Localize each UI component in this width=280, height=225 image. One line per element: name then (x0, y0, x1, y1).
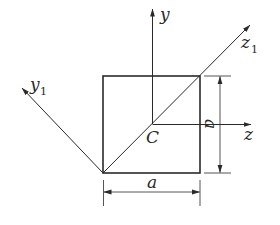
square-section-diagram: y z z 1 y 1 C a a (0, 0, 280, 225)
svg-text:z: z (240, 32, 251, 52)
svg-text:1: 1 (40, 85, 47, 98)
svg-text:y: y (29, 74, 40, 94)
y1-axis-label: y 1 (29, 74, 47, 98)
height-dimension-label: a (201, 119, 221, 129)
z1-axis-label: z 1 (240, 32, 258, 56)
centroid-label: C (146, 127, 159, 147)
y-axis-label: y (159, 4, 170, 24)
z-axis-label: z (243, 124, 254, 144)
z1-axis (103, 25, 250, 173)
svg-text:1: 1 (251, 43, 258, 56)
y1-axis (22, 88, 103, 173)
width-dimension-label: a (147, 172, 157, 192)
